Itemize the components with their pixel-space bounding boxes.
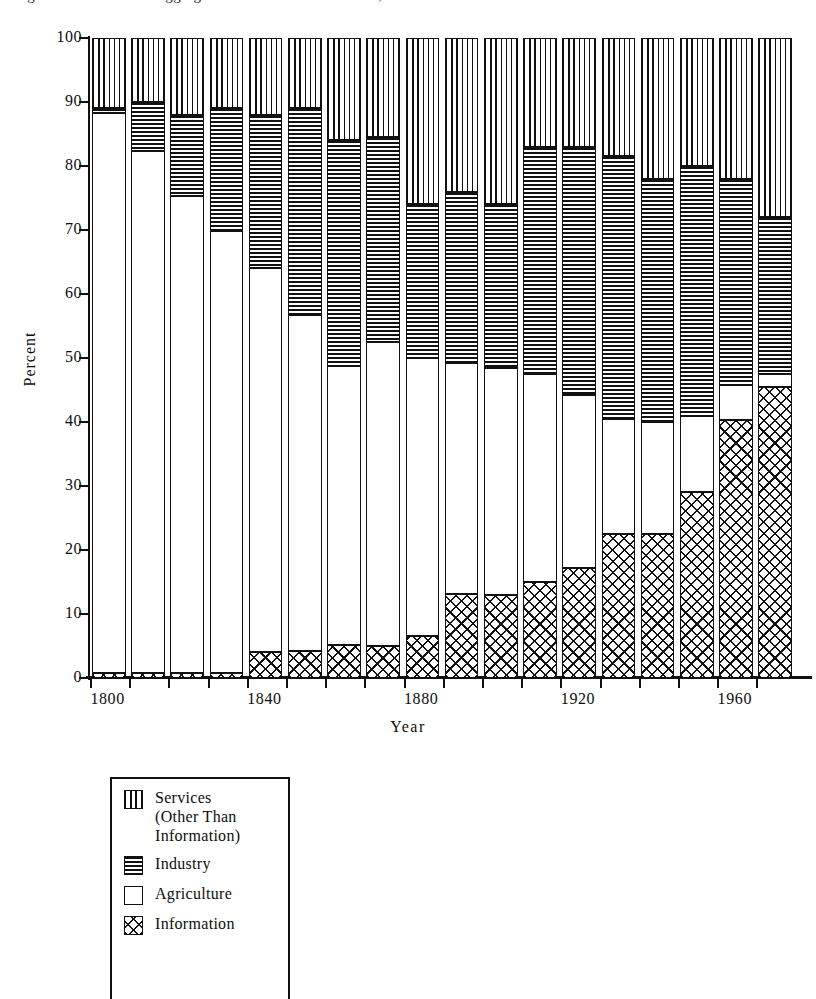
- y-tick-label-20: 20: [38, 541, 82, 557]
- bar-1870: [366, 38, 400, 678]
- bar-segment-industry-1900: [484, 204, 518, 367]
- bar-segment-agriculture-1850: [288, 315, 322, 651]
- bar-segment-information-1850: [288, 651, 322, 678]
- bar-segment-information-1830: [210, 673, 244, 678]
- legend-label-line: Industry: [155, 854, 211, 873]
- legend-label-line: Agriculture: [155, 884, 232, 903]
- bar-segment-industry-1930: [602, 156, 636, 418]
- bar-segment-industry-1830: [210, 108, 244, 231]
- bar-1910: [523, 38, 557, 678]
- x-tick-1810: [129, 679, 131, 688]
- y-tick-label-10: 10: [38, 605, 82, 621]
- bar-segment-agriculture-1940: [641, 422, 675, 534]
- y-tick-label-40: 40: [38, 413, 82, 429]
- legend-label-industry: Industry: [155, 854, 211, 873]
- plot-area: [88, 38, 810, 678]
- bar-segment-agriculture-1910: [523, 374, 557, 582]
- x-tick-1970: [756, 679, 758, 688]
- bar-segment-information-1870: [366, 646, 400, 678]
- bar-segment-services-1870: [366, 38, 400, 137]
- bar-segment-industry-1970: [758, 217, 792, 374]
- bar-segment-services-1960: [719, 38, 753, 179]
- bar-segment-agriculture-1860: [327, 366, 361, 644]
- x-tick-1830: [208, 679, 210, 688]
- y-tick-label-0: 0: [38, 669, 82, 685]
- bar-segment-industry-1920: [562, 147, 596, 395]
- bar-segment-agriculture-1930: [602, 419, 636, 534]
- bar-segment-information-1900: [484, 595, 518, 678]
- y-tick-label-100: 100: [38, 29, 82, 45]
- bar-segment-services-1970: [758, 38, 792, 217]
- bar-segment-services-1800: [92, 38, 126, 108]
- bar-segment-services-1920: [562, 38, 596, 147]
- bar-1850: [288, 38, 322, 678]
- bar-segment-services-1930: [602, 38, 636, 156]
- legend-swatch-services-icon: [124, 790, 143, 809]
- bar-segment-services-1840: [249, 38, 283, 115]
- x-tick-1920: [560, 679, 562, 688]
- bar-segment-industry-1910: [523, 147, 557, 374]
- bar-segment-information-1930: [602, 534, 636, 678]
- bar-1930: [602, 38, 636, 678]
- bar-1940: [641, 38, 675, 678]
- bar-segment-information-1890: [445, 594, 479, 678]
- x-tick-label-1960: 1960: [700, 690, 770, 708]
- x-tick-1910: [521, 679, 523, 688]
- y-tick-label-50: 50: [38, 349, 82, 365]
- figure-title-clipped: Figure 1. Four Sector Aggregation of the…: [0, 0, 816, 14]
- x-tick-1940: [639, 679, 641, 688]
- x-tick-1890: [443, 679, 445, 688]
- bar-1950: [680, 38, 714, 678]
- bar-segment-agriculture-1870: [366, 342, 400, 646]
- bar-1810: [131, 38, 165, 678]
- x-tick-1950: [678, 679, 680, 688]
- x-tick-1880: [404, 679, 406, 688]
- x-tick-label-1840: 1840: [229, 690, 299, 708]
- bar-1890: [445, 38, 479, 678]
- bar-1830: [210, 38, 244, 678]
- bar-segment-agriculture-1890: [445, 363, 479, 593]
- y-tick-label-60: 60: [38, 285, 82, 301]
- bar-segment-industry-1840: [249, 115, 283, 269]
- bar-segment-industry-1850: [288, 108, 322, 315]
- legend-label-line: Information): [155, 826, 240, 845]
- bar-segment-services-1890: [445, 38, 479, 192]
- bar-segment-services-1900: [484, 38, 518, 204]
- x-axis-title: Year: [0, 718, 816, 736]
- y-tick-label-70: 70: [38, 221, 82, 237]
- x-tick-1840: [247, 679, 249, 688]
- legend-label-agriculture: Agriculture: [155, 884, 232, 903]
- x-tick-1800: [90, 679, 92, 688]
- bar-segment-agriculture-1970: [758, 374, 792, 387]
- bar-1900: [484, 38, 518, 678]
- bar-segment-services-1880: [406, 38, 440, 204]
- bar-segment-agriculture-1800: [92, 113, 126, 673]
- bar-1960: [719, 38, 753, 678]
- bar-segment-industry-1890: [445, 192, 479, 364]
- bar-segment-information-1880: [406, 636, 440, 678]
- bar-segment-industry-1820: [170, 115, 204, 196]
- bar-segment-agriculture-1840: [249, 268, 283, 652]
- bar-segment-industry-1860: [327, 140, 361, 366]
- bar-segment-agriculture-1920: [562, 395, 596, 568]
- bar-segment-industry-1800: [92, 108, 126, 112]
- x-tick-1860: [325, 679, 327, 688]
- y-tick-label-90: 90: [38, 93, 82, 109]
- bar-1920: [562, 38, 596, 678]
- bar-segment-information-1920: [562, 568, 596, 678]
- bar-segment-services-1830: [210, 38, 244, 108]
- bar-segment-agriculture-1810: [131, 151, 165, 673]
- x-tick-1870: [364, 679, 366, 688]
- y-tick-label-30: 30: [38, 477, 82, 493]
- bar-segment-industry-1880: [406, 204, 440, 358]
- x-tick-label-1880: 1880: [386, 690, 456, 708]
- bar-segment-services-1810: [131, 38, 165, 102]
- legend-item-industry: Industry: [124, 854, 288, 875]
- bar-1970: [758, 38, 792, 678]
- legend-label-services: Services(Other ThanInformation): [155, 788, 240, 845]
- legend-swatch-industry-icon: [124, 856, 143, 875]
- x-tick-1930: [600, 679, 602, 688]
- x-tick-1900: [482, 679, 484, 688]
- x-tick-1850: [286, 679, 288, 688]
- x-tick-1820: [168, 679, 170, 688]
